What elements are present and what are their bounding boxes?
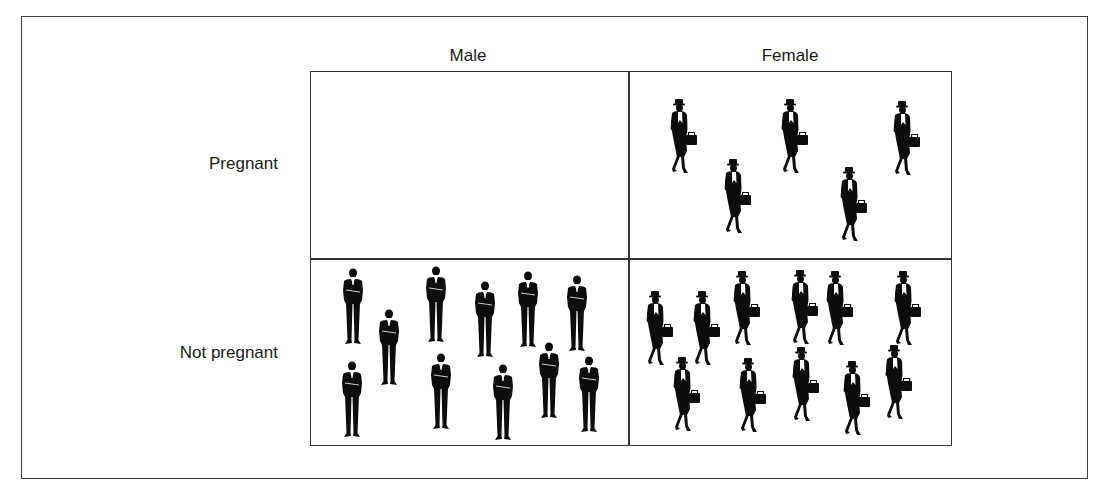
woman-with-briefcase-icon bbox=[668, 99, 702, 177]
man-in-suit-icon bbox=[515, 271, 541, 351]
woman-with-briefcase-icon bbox=[891, 101, 925, 179]
man-in-suit-icon bbox=[339, 361, 365, 441]
woman-with-briefcase-icon bbox=[841, 361, 875, 439]
row-header-not-pregnant: Not pregnant bbox=[78, 343, 278, 363]
woman-with-briefcase-icon bbox=[737, 358, 771, 436]
man-in-suit-icon bbox=[536, 342, 562, 422]
man-in-suit-icon bbox=[576, 356, 602, 436]
column-header-female: Female bbox=[690, 46, 890, 66]
woman-with-briefcase-icon bbox=[883, 345, 917, 423]
woman-with-briefcase-icon bbox=[671, 357, 705, 435]
woman-with-briefcase-icon bbox=[824, 271, 858, 349]
woman-with-briefcase-icon bbox=[789, 270, 823, 348]
woman-with-briefcase-icon bbox=[790, 347, 824, 425]
woman-with-briefcase-icon bbox=[892, 271, 926, 349]
woman-with-briefcase-icon bbox=[731, 271, 765, 349]
man-in-suit-icon bbox=[340, 268, 366, 348]
man-in-suit-icon bbox=[472, 281, 498, 361]
column-header-male: Male bbox=[368, 46, 568, 66]
man-in-suit-icon bbox=[490, 364, 516, 444]
man-in-suit-icon bbox=[428, 353, 454, 433]
row-header-pregnant: Pregnant bbox=[78, 154, 278, 174]
grid-horizontal-divider bbox=[310, 258, 952, 260]
man-in-suit-icon bbox=[423, 266, 449, 346]
woman-with-briefcase-icon bbox=[779, 99, 813, 177]
man-in-suit-icon bbox=[376, 309, 402, 389]
woman-with-briefcase-icon bbox=[838, 167, 872, 245]
man-in-suit-icon bbox=[564, 275, 590, 355]
woman-with-briefcase-icon bbox=[722, 159, 756, 237]
